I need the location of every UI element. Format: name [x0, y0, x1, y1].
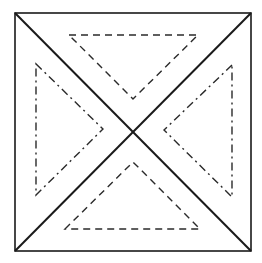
diagram-canvas: [0, 0, 262, 263]
bottom-triangle: [65, 162, 200, 229]
right-triangle: [164, 65, 232, 197]
square-triangles-diagram: [0, 0, 262, 263]
left-triangle: [36, 64, 103, 195]
top-triangle: [69, 35, 198, 99]
